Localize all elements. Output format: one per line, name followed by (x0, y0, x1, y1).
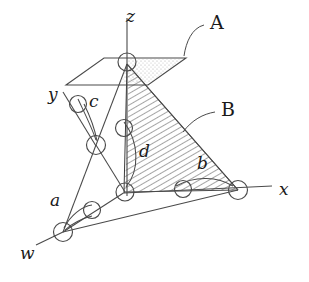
edge-label-a: a (50, 192, 60, 209)
diagram-canvas: z y x w A B a b c d (0, 0, 309, 282)
node-left-mid (87, 136, 106, 155)
edge-label-c: c (89, 93, 99, 110)
leader-b (183, 112, 215, 132)
leader-lines (183, 25, 215, 132)
node-arc-c (70, 96, 87, 113)
hatched-region-b (124, 64, 238, 192)
node-center (116, 183, 134, 201)
node-arc-d (116, 120, 133, 137)
axis-label-x: x (279, 181, 289, 198)
leader-a (184, 25, 204, 56)
edge-label-b: b (197, 155, 208, 172)
axis-label-w: w (20, 245, 35, 262)
diagram-vector-layer (0, 0, 309, 282)
node-arc-a (84, 202, 101, 219)
node-w (54, 223, 73, 242)
region-label-a: A (210, 13, 224, 32)
node-x (229, 181, 248, 200)
node-arc-b (175, 181, 192, 198)
region-label-b: B (221, 100, 235, 119)
axis-label-y: y (48, 86, 58, 103)
node-apex (118, 53, 136, 71)
edge-label-d: d (139, 143, 150, 160)
axis-label-z: z (126, 8, 135, 25)
